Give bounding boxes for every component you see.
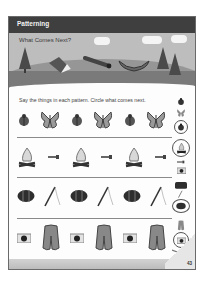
life-vest-icon <box>94 224 114 252</box>
pattern-row-4 <box>17 221 167 255</box>
river <box>9 83 195 91</box>
tree-trunk <box>24 69 26 73</box>
cloud-icon <box>171 35 187 43</box>
choice-fishing-rod[interactable] <box>177 190 185 198</box>
camera-icon <box>70 233 84 243</box>
cloud-icon <box>142 36 162 44</box>
flashlight-icon <box>101 154 113 160</box>
sleeping-bag-icon <box>123 189 141 203</box>
pattern-row-1 <box>17 107 167 133</box>
butterfly-icon <box>39 109 61 131</box>
log-icon <box>83 55 113 69</box>
choice-ladybug-circled[interactable] <box>174 120 188 134</box>
butterfly-icon <box>92 109 114 131</box>
choice-campfire-circled[interactable] <box>172 139 190 157</box>
row-divider <box>17 177 172 178</box>
page-title: What Comes Next? <box>19 37 71 43</box>
section-title: Patterning <box>17 20 49 27</box>
answer-choices-row-2 <box>171 139 191 174</box>
flashlight-icon <box>155 154 167 160</box>
row-divider <box>17 137 172 138</box>
camera-icon <box>123 233 137 243</box>
ladybug-icon <box>123 113 137 127</box>
canoe-icon <box>117 59 151 73</box>
butterfly-icon <box>145 109 167 131</box>
sleeping-bag-icon <box>70 189 88 203</box>
life-vest-icon <box>147 224 167 252</box>
row-divider <box>17 218 172 219</box>
ladybug-icon <box>70 113 84 127</box>
tent-icon <box>47 55 73 73</box>
choice-butterfly[interactable] <box>176 108 186 118</box>
sleeping-bag-icon <box>17 189 35 203</box>
tree-icon <box>19 47 31 69</box>
campfire-icon <box>17 146 37 168</box>
choice-flashlight[interactable] <box>177 160 185 164</box>
pattern-row-3 <box>17 181 167 211</box>
fishing-rod-icon <box>43 185 61 207</box>
answer-choices-row-3 <box>171 181 191 213</box>
camera-icon <box>17 233 31 243</box>
ladybug-icon <box>17 113 31 127</box>
instructions: Say the things in each pattern. Circle w… <box>19 97 146 103</box>
tree-icon <box>157 47 169 69</box>
cloud-icon <box>94 37 110 45</box>
choice-camera[interactable] <box>177 167 186 174</box>
fishing-rod-icon <box>96 185 114 207</box>
page-number: 43 <box>187 261 192 266</box>
answer-choices-row-1 <box>171 97 191 134</box>
landscape-banner: What Comes Next? <box>9 33 195 91</box>
campfire-icon <box>71 146 91 168</box>
choice-duffel-bag[interactable] <box>175 181 187 189</box>
fishing-rod-icon <box>149 185 167 207</box>
tree-icon <box>169 53 181 75</box>
campfire-icon <box>124 146 144 168</box>
choice-sleeping-bag-circled[interactable] <box>172 199 190 213</box>
flashlight-icon <box>48 154 60 160</box>
life-vest-icon <box>41 224 61 252</box>
pattern-row-2 <box>17 143 167 171</box>
section-header: Patterning <box>9 17 195 33</box>
worksheet-page: Patterning What Comes Next? Say the thin… <box>8 16 196 270</box>
choice-ladybug[interactable] <box>177 97 185 106</box>
